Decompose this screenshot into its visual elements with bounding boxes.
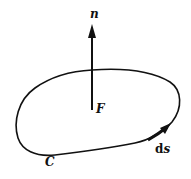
normal-vector-arrowhead-icon [88,24,96,38]
label-c: C [45,156,55,168]
diagram-figure: n F C ds [0,0,191,179]
label-ds: ds [155,143,170,155]
label-n: n [90,8,99,20]
label-f: F [96,103,105,115]
label-ds-s: s [163,142,170,156]
